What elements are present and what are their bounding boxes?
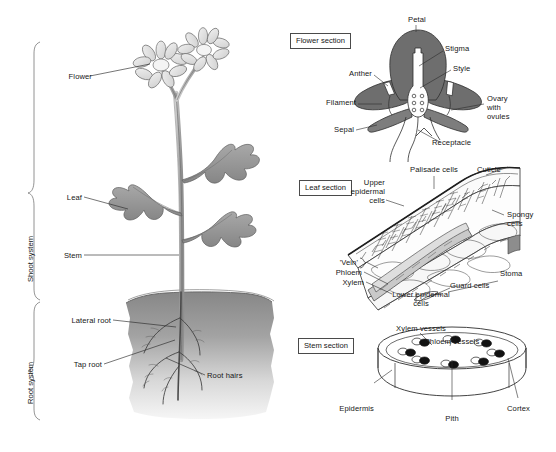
- label-sepal: Sepal: [310, 125, 354, 134]
- label-tap-root: Tap root: [38, 360, 102, 369]
- label-stem: Stem: [38, 251, 82, 260]
- label-phloem: Phloem: [316, 268, 362, 277]
- label-anther: Anther: [316, 69, 372, 78]
- label-epidermis: Epidermis: [314, 404, 374, 413]
- label-pith: Pith: [433, 414, 471, 423]
- label-leaf: Leaf: [38, 193, 82, 202]
- label-xylem-vessels: Xylem vessels: [385, 324, 457, 333]
- label-filament: Filament: [304, 98, 356, 107]
- label-palisade-cells: Palisade cells: [399, 165, 469, 174]
- label-lower-epidermal-cells: Lower epidermal cells: [378, 290, 464, 308]
- label-petal: Petal: [395, 15, 439, 24]
- label-stoma: Stoma: [500, 269, 522, 278]
- label-receptacle: Receptacle: [432, 138, 471, 147]
- label-style: Style: [453, 64, 470, 73]
- whole-plant-panel: [0, 0, 556, 452]
- label-cuticle: Cuticle: [477, 165, 501, 174]
- stem-section-title: Stem section: [298, 338, 354, 354]
- label-root-hairs: Root hairs: [207, 371, 243, 380]
- figure-canvas: [0, 0, 556, 452]
- label-ovary-with-ovules: Ovary with ovules: [487, 94, 510, 122]
- label-spongy-cells: Spongy cells: [507, 210, 533, 228]
- bracket-label-shoot-system: Shoot system: [26, 236, 35, 282]
- label-guard-cells: Guard cells: [450, 281, 490, 290]
- label-phloem-vessels: Phloem vessels: [412, 337, 492, 346]
- label-cortex: Cortex: [507, 404, 530, 413]
- label-stigma: Stigma: [445, 44, 469, 53]
- label-upper-epidermal-cells: Upper epidermal cells: [333, 178, 385, 206]
- plant-leaves: [109, 144, 259, 247]
- label-flower: Flower: [38, 72, 92, 81]
- label-xylem: Xylem: [324, 278, 364, 287]
- label-vein: 'Vein': [326, 258, 358, 267]
- bracket-label-root-system: Root system: [26, 362, 35, 404]
- flower-section-title: Flower section: [290, 33, 351, 49]
- label-lateral-root: Lateral root: [38, 316, 111, 325]
